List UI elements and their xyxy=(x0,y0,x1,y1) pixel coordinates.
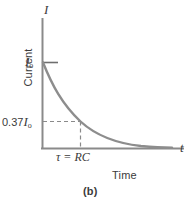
x-axis-title: Time xyxy=(112,170,137,181)
y-tick-label-initial-current: Io xyxy=(25,55,33,70)
x-axis-symbol: t xyxy=(180,141,184,154)
figure-rc-current-decay: I t Current Time Io 0.37Io τ = RC (b) xyxy=(0,0,188,201)
tick-037-number: 0.37 xyxy=(2,116,23,128)
time-constant-annotation: τ = RC xyxy=(56,151,90,163)
tick-i0-subscript: o xyxy=(29,61,33,70)
decay-curve xyxy=(43,63,172,148)
y-tick-label-037-current: 0.37Io xyxy=(2,115,32,130)
tick-037-subscript: o xyxy=(28,121,32,130)
figure-caption: (b) xyxy=(83,186,98,197)
y-axis-symbol: I xyxy=(44,3,48,16)
